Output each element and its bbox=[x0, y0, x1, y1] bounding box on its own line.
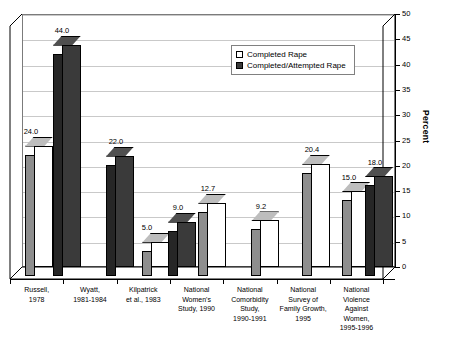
bar-chart: 24.0 44.0 22.0 5.0 9.0 12.7 9.2 20.4 15.… bbox=[0, 0, 450, 340]
y-tick-40 bbox=[395, 65, 400, 66]
datalabel-nvaw-completed: 15.0 bbox=[332, 173, 366, 182]
x-tick-3 bbox=[170, 279, 171, 284]
y-tick-label-25: 25 bbox=[402, 137, 410, 145]
datalabel-kilpatrick-completed-attempted: 9.0 bbox=[161, 203, 195, 212]
legend-swatch-dark-icon bbox=[236, 62, 243, 69]
x-label-ncs: NationalComorbidityStudy,1990-1991 bbox=[223, 285, 276, 323]
x-tick-0 bbox=[10, 279, 11, 284]
datalabel-nsfg-completed: 20.4 bbox=[295, 145, 329, 154]
y-tick-10 bbox=[395, 216, 400, 217]
x-label-russell: Russell,1978 bbox=[10, 285, 63, 304]
datalabel-wyatt-completed-attempted: 22.0 bbox=[99, 137, 133, 146]
x-label-nws: NationalWomen'sStudy, 1990 bbox=[170, 285, 223, 314]
x-label-kilpatrick: Kilpatricket al., 1983 bbox=[117, 285, 170, 304]
y-tick-label-15: 15 bbox=[402, 187, 410, 195]
x-tick-5 bbox=[277, 279, 278, 284]
x-axis-line bbox=[10, 279, 395, 280]
y-tick-45 bbox=[395, 39, 400, 40]
datalabel-nvaw-completed-attempted: 18.0 bbox=[358, 158, 392, 167]
legend-item-completed-attempted-rape: Completed/Attempted Rape bbox=[236, 60, 350, 71]
legend-label-completed-rape: Completed Rape bbox=[247, 50, 307, 60]
datalabel-russell-completed-attempted: 44.0 bbox=[45, 26, 79, 35]
datalabel-ncs-completed: 9.2 bbox=[244, 202, 278, 211]
y-tick-label-10: 10 bbox=[402, 212, 410, 220]
x-label-nvaw: NationalViolenceAgainstWomen,1995-1996 bbox=[330, 285, 383, 333]
datalabel-kilpatrick-completed: 5.0 bbox=[130, 223, 164, 232]
x-tick-1 bbox=[63, 279, 64, 284]
y-tick-label-5: 5 bbox=[402, 238, 406, 246]
y-tick-0 bbox=[395, 267, 400, 268]
y-tick-30 bbox=[395, 115, 400, 116]
y-tick-label-35: 35 bbox=[402, 86, 410, 94]
y-tick-35 bbox=[395, 90, 400, 91]
y-tick-50 bbox=[395, 14, 400, 15]
chart-legend: Completed Rape Completed/Attempted Rape bbox=[231, 45, 355, 75]
x-tick-7 bbox=[383, 279, 384, 284]
legend-swatch-light-icon bbox=[236, 51, 243, 58]
y-tick-label-20: 20 bbox=[402, 162, 410, 170]
x-tick-6 bbox=[330, 279, 331, 284]
y-axis-title: Percent bbox=[421, 110, 431, 143]
legend-label-completed-attempted-rape: Completed/Attempted Rape bbox=[247, 61, 346, 71]
x-tick-2 bbox=[117, 279, 118, 284]
y-tick-25 bbox=[395, 141, 400, 142]
x-label-wyatt: Wyatt,1981-1984 bbox=[63, 285, 116, 304]
y-tick-5 bbox=[395, 242, 400, 243]
x-tick-4 bbox=[223, 279, 224, 284]
datalabel-nws-completed: 12.7 bbox=[191, 184, 225, 193]
x-label-nsfg: NationalSurvey ofFamily Growth,1995 bbox=[277, 285, 330, 323]
y-tick-20 bbox=[395, 166, 400, 167]
y-tick-15 bbox=[395, 191, 400, 192]
y-tick-label-45: 45 bbox=[402, 35, 410, 43]
y-tick-label-30: 30 bbox=[402, 111, 410, 119]
datalabel-russell-completed: 24.0 bbox=[14, 127, 48, 136]
y-tick-label-50: 50 bbox=[402, 10, 410, 18]
y-tick-label-40: 40 bbox=[402, 61, 410, 69]
y-tick-label-0: 0 bbox=[402, 263, 406, 271]
legend-item-completed-rape: Completed Rape bbox=[236, 49, 350, 60]
